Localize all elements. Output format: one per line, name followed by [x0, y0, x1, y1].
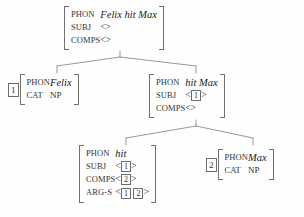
attr-phon: PHON: [156, 77, 185, 89]
attr-subj: SUBJ: [156, 89, 185, 102]
val-cat: NP: [50, 89, 72, 102]
node-root: PHON Felix hit Max SUBJ <> COMPS <>: [64, 6, 164, 50]
val-phon: Max: [248, 152, 267, 164]
feature-row: COMPS <>: [156, 102, 218, 115]
empty-list: <>: [100, 35, 110, 45]
node-object: 2 PHON Max CAT NP: [206, 149, 274, 180]
feature-row: COMPS <2>: [86, 173, 149, 186]
avm-subject: PHON Felix CAT NP: [20, 74, 79, 105]
val-comps: <>: [100, 34, 157, 47]
empty-list: <>: [100, 22, 110, 32]
node-subject: 1 PHON Felix CAT NP: [8, 74, 79, 105]
avm-root: PHON Felix hit Max SUBJ <> COMPS <>: [64, 6, 164, 50]
val-phon: Felix hit Max: [100, 9, 157, 21]
cat-text: NP: [50, 90, 62, 100]
phon-text: Max: [248, 152, 267, 163]
val-phon: Felix: [50, 77, 72, 89]
node-vp: PHON hit Max SUBJ <1> COMPS <>: [149, 74, 225, 118]
edge-root-to-subject: [57, 57, 120, 66]
empty-list: <>: [185, 103, 195, 113]
coindex-tag-1: 1: [191, 90, 201, 101]
val-phon: hit Max: [185, 77, 217, 89]
phon-text: hit: [115, 148, 126, 159]
attr-phon: PHON: [86, 148, 115, 160]
feature-table-root: PHON Felix hit Max SUBJ <> COMPS <>: [71, 9, 157, 47]
attr-comps: COMPS: [156, 102, 185, 115]
attr-subj: SUBJ: [71, 21, 100, 34]
coindex-tag-2: 2: [206, 158, 217, 172]
feature-row: PHON Felix hit Max: [71, 9, 157, 21]
feature-row: ARG-S <1 2>: [86, 186, 149, 199]
feature-row: CAT NP: [27, 89, 72, 102]
attr-cat: CAT: [225, 164, 249, 177]
angle-close-icon: >: [131, 173, 137, 184]
val-subj: <>: [100, 21, 157, 34]
feature-row: SUBJ <>: [71, 21, 157, 34]
phon-text: Felix: [50, 77, 72, 88]
feature-row: SUBJ <1>: [156, 89, 218, 102]
coindex-tag-1: 1: [8, 83, 19, 97]
coindex-tag-2: 2: [133, 188, 143, 199]
cat-text: NP: [248, 165, 260, 175]
phon-text: Felix hit Max: [100, 9, 157, 20]
angle-close-icon: >: [201, 89, 207, 100]
attr-phon: PHON: [27, 77, 51, 89]
attr-comps: COMPS: [86, 173, 115, 186]
feature-table-vp: PHON hit Max SUBJ <1> COMPS <>: [156, 77, 218, 115]
feature-row: SUBJ <1>: [86, 160, 149, 173]
val-comps: <2>: [115, 173, 149, 186]
edge-root-to-vp: [120, 57, 196, 66]
avm-object: PHON Max CAT NP: [218, 149, 274, 180]
coindex-tag-2: 2: [121, 174, 131, 185]
avm-verb: PHON hit SUBJ <1> COMPS <2>: [79, 145, 156, 203]
edge-vp-to-object: [196, 126, 253, 138]
feature-row: PHON hit Max: [156, 77, 218, 89]
val-comps: <>: [185, 102, 217, 115]
val-arg-s: <1 2>: [115, 186, 149, 199]
val-cat: NP: [248, 164, 267, 177]
attr-arg-s: ARG-S: [86, 186, 115, 199]
feature-row: CAT NP: [225, 164, 267, 177]
angle-close-icon: >: [143, 186, 149, 197]
feature-row: COMPS <>: [71, 34, 157, 47]
coindex-tag-1: 1: [121, 161, 131, 172]
feature-table-verb: PHON hit SUBJ <1> COMPS <2>: [86, 148, 149, 200]
attr-phon: PHON: [71, 9, 100, 21]
hpsg-tree-diagram: PHON Felix hit Max SUBJ <> COMPS <>: [0, 0, 304, 217]
val-subj: <1>: [115, 160, 149, 173]
feature-row: PHON hit: [86, 148, 149, 160]
val-subj: <1>: [185, 89, 217, 102]
phon-text: hit Max: [185, 77, 217, 88]
attr-subj: SUBJ: [86, 160, 115, 173]
avm-vp: PHON hit Max SUBJ <1> COMPS <>: [149, 74, 225, 118]
val-phon: hit: [115, 148, 149, 160]
feature-row: PHON Max: [225, 152, 267, 164]
attr-comps: COMPS: [71, 34, 100, 47]
attr-cat: CAT: [27, 89, 51, 102]
node-verb: PHON hit SUBJ <1> COMPS <2>: [79, 145, 156, 203]
feature-table-object: PHON Max CAT NP: [225, 152, 267, 177]
angle-close-icon: >: [131, 160, 137, 171]
feature-row: PHON Felix: [27, 77, 72, 89]
feature-table-subject: PHON Felix CAT NP: [27, 77, 72, 102]
coindex-tag-1: 1: [121, 188, 131, 199]
attr-phon: PHON: [225, 152, 249, 164]
edge-vp-to-verb: [126, 126, 196, 138]
